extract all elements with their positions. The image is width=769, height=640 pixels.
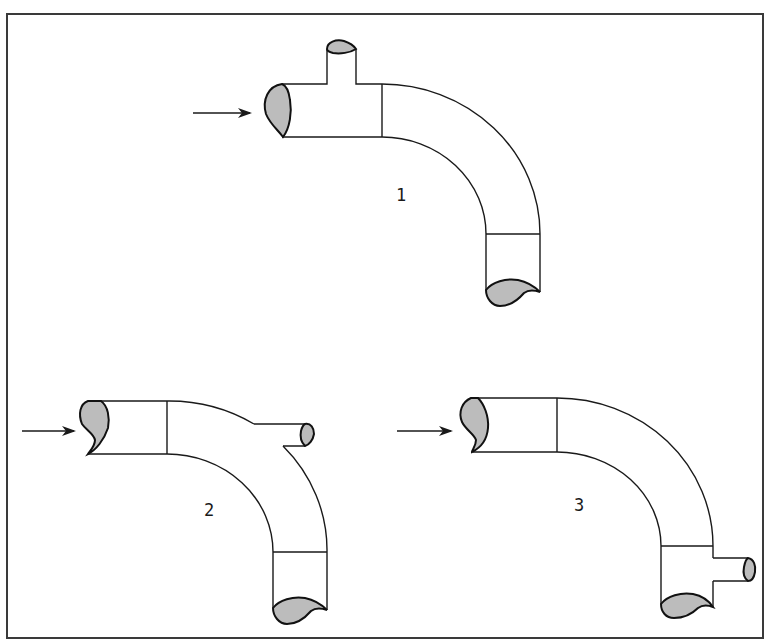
pipe-elbow-figure: 1 2 3	[0, 0, 769, 640]
flow-arrow-icon	[22, 426, 76, 436]
outlet-cap-icon	[661, 593, 713, 618]
elbow-inner-arc	[167, 454, 273, 552]
flow-arrow-icon	[397, 426, 453, 436]
branch-pipe	[254, 424, 305, 446]
outlet-cap-icon	[486, 279, 540, 306]
elbow-outer-arc	[557, 398, 713, 546]
branch-cap-icon	[744, 558, 756, 581]
diagram-1	[193, 40, 540, 306]
diagram-3-label: 3	[574, 497, 584, 514]
diagram-2	[22, 401, 327, 624]
diagram-1-label: 1	[396, 187, 406, 204]
branch-cap-icon	[327, 40, 356, 53]
inlet-pipe	[282, 49, 382, 137]
inlet-cap-icon	[460, 398, 488, 452]
inlet-cap-icon	[265, 84, 291, 137]
diagram-2-label: 2	[204, 502, 214, 519]
figure-frame	[7, 14, 763, 638]
flow-arrow-icon	[193, 108, 252, 118]
outlet-cap-icon	[273, 597, 327, 624]
inlet-cap-icon	[80, 401, 109, 454]
branch-cap-icon	[301, 424, 314, 446]
elbow-outer-arc	[382, 84, 540, 234]
elbow-inner-arc	[557, 452, 661, 546]
